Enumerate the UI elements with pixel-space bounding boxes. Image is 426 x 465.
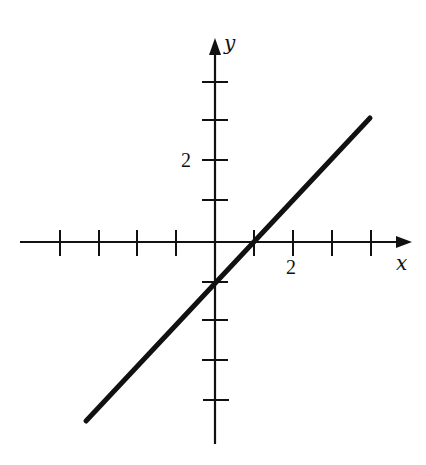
y-axis-arrow-icon [209, 38, 221, 55]
plotted-line [86, 118, 370, 421]
x-tick-label-2: 2 [286, 256, 296, 278]
x-axis-arrow-icon [396, 236, 412, 248]
y-axis-label: y [223, 31, 236, 55]
coordinate-graph: 2 x 2 y [0, 0, 426, 465]
y-axis: 2 y [181, 31, 236, 444]
x-axis-label: x [396, 251, 407, 275]
y-tick-label-2: 2 [181, 149, 191, 171]
